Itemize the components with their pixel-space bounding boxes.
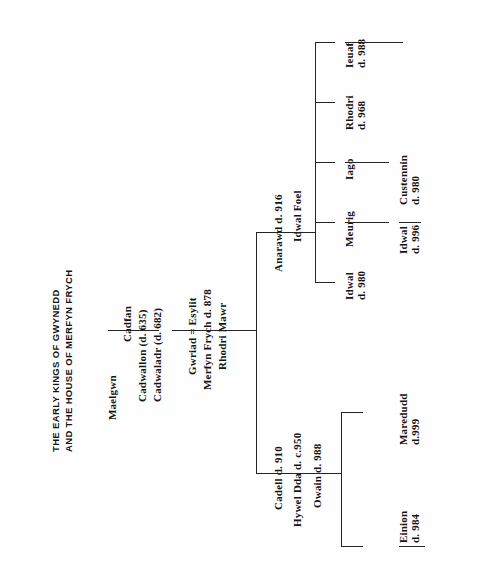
node-rhodri-968-label-line1: Rhodri [343,95,355,130]
node-meurig-label: Meurig [343,211,355,247]
node-custennin-label-line1: Custennin [397,155,409,205]
edge-idwal996-descendant [399,222,421,223]
node-merfyn-frych-label: Merfyn Frych d. 878 [201,289,213,390]
node-einion-label-line1: Einion [397,511,409,543]
node-owain-label: Owain d. 988 [311,444,323,508]
node-einion: Einion d. 984 [397,511,422,543]
edge-to-iago [315,162,335,163]
node-ieuaf-label-line2: d. 988 [355,39,367,68]
node-cadwallon-label: Cadwallon (d. 635) [136,309,148,402]
edge-to-einion [341,546,363,547]
edge-rhodri-split [218,330,256,331]
node-anarawd: Anarawd d. 916 [272,194,284,272]
edge-to-ieuaf [315,42,335,43]
edge-to-idwal980 [315,282,335,283]
edge-iago-custennin [345,162,389,163]
node-maelgwn-label: Maelgwn [106,375,118,420]
node-custennin-label-line2: d. 980 [409,155,421,205]
edge-idwalfoel-stem [293,232,315,233]
node-cadwaladr: Cadwaladr (d. 682) [151,308,163,402]
node-idwal-996-label-line2: d. 996 [409,225,421,254]
edge-einion-descendant [399,546,425,547]
node-cadwaladr-label: Cadwaladr (d. 682) [151,308,163,402]
node-rhodri-mawr-label: Rhodri Mawr [216,303,228,370]
node-idwal-foel-label: Idwal Foel [291,190,303,242]
chart-title: THE EARLY KINGS OF GWYNEDD AND THE HOUSE… [50,270,76,452]
node-owain: Owain d. 988 [311,444,323,508]
node-rhodri-mawr: Rhodri Mawr [216,303,228,370]
node-rhodri-968-label-line2: d. 968 [355,95,367,130]
node-cadwallon: Cadwallon (d. 635) [136,309,148,402]
node-hywel-dda: Hywel Dda d. c.950 [291,433,303,527]
chart-title-line2: AND THE HOUSE OF MERFYN FRYCH [63,270,76,452]
node-merfyn-frych: Merfyn Frych d. 878 [201,289,213,390]
node-rhodri-968: Rhodri d. 968 [343,95,368,130]
edge-to-meurig [315,222,335,223]
node-idwal-980-label-line1: Idwal [343,272,355,300]
chart-page: THE EARLY KINGS OF GWYNEDD AND THE HOUSE… [0,0,479,569]
node-anarawd-label: Anarawd d. 916 [272,194,284,272]
node-cadfan: Cadfan [121,306,133,342]
node-ieuaf-label-line1: Ieuaf [343,43,355,68]
node-ieuaf: Ieuaf d. 988 [343,39,368,68]
node-hywel-dda-label: Hywel Dda d. c.950 [291,433,303,527]
edge-meurig-idwal996 [345,222,389,223]
edge-rhodri-bracket [256,232,257,473]
node-maredudd-label-line2: d.999 [409,393,421,445]
edge-ieuaf-descendant [345,42,403,43]
node-meurig: Meurig [343,211,355,247]
node-maredudd-label-line1: Maredudd [397,393,409,445]
node-cadfan-label: Cadfan [121,306,133,342]
node-idwal-996: Idwal d. 996 [397,225,422,254]
node-gwriad-esylit-label: Gwriad = Esylit [186,297,198,375]
edge-to-maredudd [341,412,363,413]
edge-to-rhodri968 [315,102,335,103]
node-maredudd: Maredudd d.999 [397,393,422,445]
chart-title-line1: THE EARLY KINGS OF GWYNEDD [50,289,61,452]
node-maelgwn: Maelgwn [106,375,118,420]
node-idwal-980: Idwal d. 980 [343,271,368,300]
edge-owain-bracket [341,412,342,546]
node-cadell: Cadell d. 910 [272,446,284,510]
node-idwal-foel: Idwal Foel [291,190,303,242]
node-einion-label-line2: d. 984 [409,511,421,543]
node-custennin: Custennin d. 980 [397,155,422,205]
node-idwal-996-label-line1: Idwal [397,226,409,254]
node-idwal-980-label-line2: d. 980 [355,271,367,300]
node-gwriad-esylit: Gwriad = Esylit [186,297,198,375]
edge-owain-stem [313,473,341,474]
node-cadell-label: Cadell d. 910 [272,446,284,510]
